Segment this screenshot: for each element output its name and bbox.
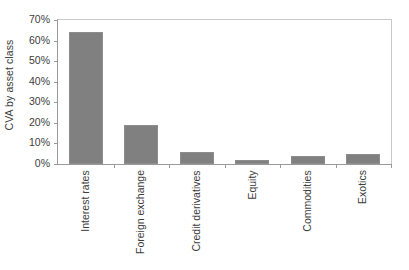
y-axis-tick-mark [54,82,58,83]
x-axis-tick-mark [169,164,170,168]
bar [346,154,380,164]
x-axis-tick-mark [391,164,392,168]
x-axis-tick-mark [280,164,281,168]
plot-area [57,19,392,165]
x-axis-category-label-text: Commodities [301,170,313,231]
bars-layer [58,20,391,164]
y-axis-tick-mark [54,123,58,124]
y-axis-tick-mark [54,102,58,103]
y-axis-tick-mark [54,164,58,165]
bar [124,125,158,164]
y-axis-tick-mark [54,61,58,62]
bar [69,32,103,164]
y-axis-tick-label: 20% [29,116,50,128]
bar [291,156,325,164]
x-axis-tick-mark [114,164,115,168]
bar [180,152,214,164]
y-axis-title-text: CVA by asset class [3,40,15,131]
y-axis-tick-mark [54,41,58,42]
y-axis-tick-label: 30% [29,95,50,107]
x-axis-category-label: Exotics [312,170,409,268]
y-axis-tick-mark [54,143,58,144]
y-axis-tick-label: 40% [29,75,50,87]
y-axis-tick-mark [54,20,58,21]
x-axis-category-label-text: Exotics [356,170,368,204]
y-axis-tick-label: 50% [29,54,50,66]
x-axis-tick-mark [225,164,226,168]
y-axis-tick-label: 10% [29,136,50,148]
x-axis-category-label-text: Credit derivatives [190,170,202,251]
bar-chart: CVA by asset class 0%10%20%30%40%50%60%7… [0,0,409,270]
x-axis-category-label-text: Equity [245,170,257,199]
y-axis-tick-label: 60% [29,34,50,46]
x-axis-category-label-text: Interest rates [79,170,91,231]
bar [235,160,269,164]
y-axis-tick-label: 70% [29,13,50,25]
x-axis-category-label-text: Foreign exchange [134,170,146,254]
x-axis-category-labels: Interest ratesForeign exchangeCredit der… [57,170,390,270]
y-axis-title: CVA by asset class [0,0,18,170]
y-axis-tick-label: 0% [35,157,50,169]
x-axis-tick-mark [336,164,337,168]
